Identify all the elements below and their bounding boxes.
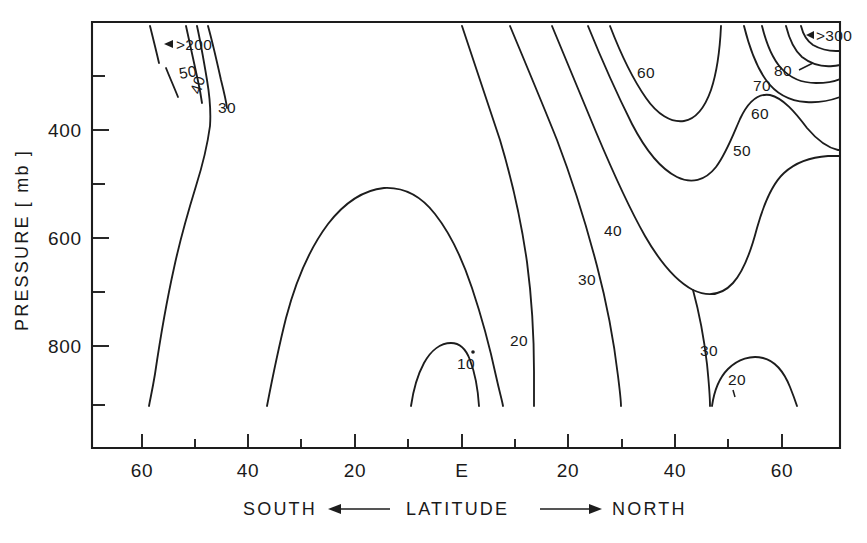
chart-svg: 400 600 800 PRESSURE [ mb ] 60 40 20 E 2… — [0, 0, 867, 543]
arrow-right-icon — [540, 504, 602, 514]
x-axis-title-center: LATITUDE — [406, 499, 509, 519]
x-axis-title-group: SOUTH LATITUDE NORTH — [243, 499, 687, 519]
label-dot-10 — [471, 350, 475, 354]
y-ticklabel-400: 400 — [48, 120, 82, 141]
contour-label-60-right: 60 — [751, 105, 769, 122]
contour-label-80-group: 80 — [774, 62, 813, 79]
x-ticklabel-equator: E — [455, 460, 468, 481]
label-tail-80 — [799, 63, 813, 70]
contour-label-20-bottom-right: 20 — [728, 371, 746, 388]
contour-50-south — [166, 68, 178, 97]
x-axis-title-north: NORTH — [612, 499, 687, 519]
contour-20-north-flank — [462, 26, 534, 406]
contour-label-gt300-group: >300 — [806, 27, 852, 44]
contour-label-70: 70 — [753, 77, 771, 94]
contour-30-north-flank — [510, 26, 621, 406]
contour-label-20-center: 20 — [510, 332, 528, 349]
x-ticklabel-60-north: 60 — [771, 460, 794, 481]
y-axis-tick-labels: 400 600 800 — [48, 120, 82, 357]
contour-40-north-kink — [552, 26, 840, 294]
contour-60-north-trough — [610, 26, 721, 121]
contour-50-north-wavy — [588, 26, 840, 181]
contour-label-30-south: 30 — [218, 99, 236, 116]
x-axis-tick-labels: 60 40 20 E 20 40 60 — [131, 460, 794, 481]
contour-label-10-center: 10 — [457, 355, 475, 372]
contour-label-40-center: 40 — [604, 222, 622, 239]
y-axis-ticks — [92, 76, 109, 405]
x-ticklabel-20-north: 20 — [557, 460, 580, 481]
contour-label-gt200-group: >200 — [164, 36, 212, 53]
contour-label-60-top: 60 — [637, 64, 655, 81]
contour-label-30-bottom-right: 30 — [700, 342, 718, 359]
contour-10-equatorial-dome — [411, 343, 479, 406]
y-ticklabel-600: 600 — [48, 228, 82, 249]
contour-label-gt200: >200 — [176, 36, 212, 53]
contour-labels: >200 50 40 30 60 >300 80 70 60 50 40 30 … — [164, 27, 852, 397]
x-axis-ticks — [142, 434, 782, 448]
y-ticklabel-800: 800 — [48, 336, 82, 357]
contour-label-50-right: 50 — [733, 142, 751, 159]
contour-label-80: 80 — [774, 62, 792, 79]
contour-label-gt300: >300 — [816, 27, 852, 44]
x-ticklabel-40-north: 40 — [664, 460, 687, 481]
contour-label-30-center: 30 — [578, 271, 596, 288]
x-ticklabel-40-south: 40 — [237, 460, 260, 481]
x-ticklabel-60-south: 60 — [131, 460, 154, 481]
gt-marker-icon — [164, 40, 173, 48]
contour-gt200-south — [150, 26, 159, 63]
arrow-left-icon — [328, 504, 390, 514]
contour-chart-figure: 400 600 800 PRESSURE [ mb ] 60 40 20 E 2… — [0, 0, 867, 543]
y-axis-title-group: PRESSURE [ mb ] — [12, 149, 32, 331]
x-axis-title-south: SOUTH — [243, 499, 317, 519]
contour-20-tropical-dome — [267, 188, 503, 406]
gt-marker-icon-2 — [806, 31, 814, 39]
contour-label-20-br-group: 20 — [728, 371, 746, 397]
y-axis-title: PRESSURE [ mb ] — [12, 149, 32, 331]
label-tail-20br — [733, 390, 735, 397]
contour-20-northeast-dome — [712, 357, 797, 406]
x-ticklabel-20-south: 20 — [344, 460, 367, 481]
contour-lines — [149, 26, 840, 406]
